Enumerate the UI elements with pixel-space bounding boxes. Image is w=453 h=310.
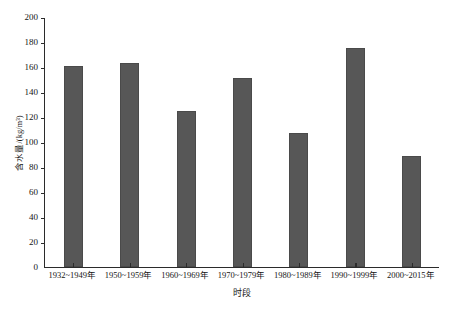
bar[interactable] [233,78,252,267]
bar[interactable] [177,111,196,267]
x-axis-title: 时段 [44,288,439,299]
y-axis-tick-label: 140 [8,88,38,97]
x-axis-tick [130,263,131,267]
y-axis-tick-label: 0 [8,263,38,272]
bar[interactable] [289,133,308,267]
y-axis-tick-label: 80 [8,163,38,172]
y-axis-tick [41,68,46,69]
bar[interactable] [346,48,365,267]
plot-area [44,18,439,268]
y-axis-tick [41,118,46,119]
y-axis-tick-label: 60 [8,188,38,197]
x-axis-tick [243,263,244,267]
y-axis-tick [41,143,46,144]
x-axis-tick [299,263,300,267]
plot-inner [45,18,439,267]
bar[interactable] [64,66,83,267]
y-axis-tick [41,168,46,169]
x-axis-tick [186,263,187,267]
y-axis-tick [41,43,46,44]
y-axis-tick [41,18,46,19]
x-axis-tick-labels: 1932~1949年1950~1959年1960~1969年1970~1979年… [44,270,439,286]
x-axis-tick [412,263,413,267]
y-axis-tick-label: 40 [8,213,38,222]
y-axis-tick [41,193,46,194]
y-axis-tick-label: 100 [8,138,38,147]
y-axis-tick-label: 160 [8,63,38,72]
y-axis-tick-label: 200 [8,13,38,22]
y-axis-tick [41,243,46,244]
y-axis-tick-labels: 020406080100120140160180200 [8,0,38,310]
x-axis-tick [73,263,74,267]
bar[interactable] [120,63,139,267]
y-axis-tick-label: 120 [8,113,38,122]
x-axis-tick [355,263,356,267]
y-axis-tick-label: 180 [8,38,38,47]
bar-chart: 含水量/(kg/m³) 020406080100120140160180200 … [0,0,453,310]
y-axis-tick [41,218,46,219]
y-axis-tick [41,93,46,94]
x-axis-tick-label: 2000~2015年 [378,270,444,281]
y-axis-tick-label: 20 [8,238,38,247]
bar[interactable] [402,156,421,267]
